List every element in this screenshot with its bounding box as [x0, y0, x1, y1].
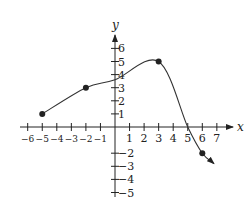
y-tick-label: −4: [118, 173, 134, 186]
y-tick-label: −5: [118, 187, 134, 200]
x-tick-label: 1: [126, 132, 133, 145]
y-axis-label: y: [111, 18, 119, 32]
data-point: [199, 150, 205, 156]
x-tick-label: 2: [141, 132, 148, 145]
x-tick-label: 5: [184, 132, 191, 145]
x-tick-label: −1: [94, 134, 107, 144]
y-tick-label: 3: [118, 82, 125, 95]
data-point: [156, 59, 162, 65]
y-tick-label: 1: [118, 108, 125, 121]
y-tick-label: 2: [118, 95, 125, 108]
x-tick-label: −2: [79, 134, 92, 144]
x-tick-label: 7: [213, 132, 220, 145]
x-tick-label: 4: [170, 132, 177, 145]
x-tick-label: 6: [199, 132, 206, 145]
x-tick-label: −5: [36, 134, 50, 144]
y-tick-label: 5: [118, 56, 125, 69]
y-tick-label: −2: [118, 147, 134, 160]
x-tick-label: −3: [65, 134, 79, 144]
x-tick-label: −6: [21, 134, 35, 144]
x-axis-label: x: [237, 120, 244, 134]
data-point: [39, 111, 45, 117]
data-point: [83, 85, 89, 91]
x-tick-label: 3: [155, 132, 162, 145]
tick-labels: −6−5−4−3−2−11234567−5−4−3−2123456: [21, 42, 220, 199]
x-tick-label: −4: [50, 134, 64, 144]
y-tick-label: 6: [118, 42, 125, 55]
function-graph: −6−5−4−3−2−11234567−5−4−3−2123456 x y: [0, 0, 250, 210]
y-tick-label: −3: [118, 160, 134, 173]
